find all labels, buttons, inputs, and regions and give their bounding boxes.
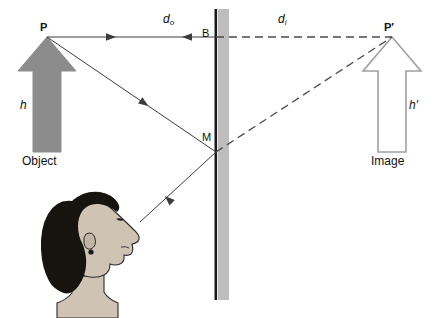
virtual-ray-group — [216, 37, 392, 152]
image-distance-symbol: d — [278, 12, 285, 26]
object-distance-subscript: o — [170, 18, 174, 27]
object-arrow — [18, 37, 76, 152]
object-distance-symbol: d — [163, 12, 170, 26]
arrowhead-incident-diagonal — [138, 97, 151, 109]
label-mirror-top-point: B — [202, 28, 209, 39]
plane-mirror — [215, 9, 230, 300]
arrowhead-reflected-horizontal — [182, 33, 192, 41]
image-arrow — [363, 37, 421, 152]
ray-arrowheads — [106, 33, 192, 205]
arrowhead-incident-horizontal — [106, 33, 116, 41]
label-mirror-reflect-point: M — [202, 132, 211, 143]
earring — [88, 249, 93, 254]
label-object-height: h — [20, 99, 27, 111]
observer-head — [41, 192, 139, 318]
caption-image: Image — [371, 155, 404, 167]
ray-reflected-M-to-eye — [140, 152, 216, 222]
mirror-glass-band — [218, 9, 229, 300]
label-object-distance: do — [163, 13, 174, 27]
label-image-distance: di — [278, 13, 286, 27]
figure-canvas: P P′ B M do di h h′ Object Image — [0, 0, 437, 318]
label-object-point: P — [40, 22, 47, 33]
label-image-point: P′ — [384, 22, 394, 33]
mirror-reflecting-surface — [215, 9, 218, 300]
label-image-height: h′ — [409, 99, 418, 111]
virtual-ray-diagonal-M-to-image-point — [216, 37, 392, 152]
caption-object: Object — [22, 155, 57, 167]
solid-ray-group — [47, 37, 216, 222]
image-distance-subscript: i — [285, 18, 287, 27]
ear — [84, 233, 96, 249]
ray-incident-P-to-M — [47, 37, 216, 152]
